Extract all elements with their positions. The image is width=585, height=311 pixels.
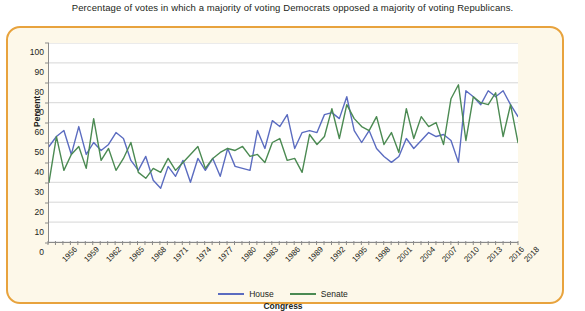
x-tick-label: 1983 bbox=[261, 245, 280, 264]
legend-swatch-senate bbox=[290, 293, 316, 296]
x-axis-labels: 1956195919621965196819711974197719801983… bbox=[48, 245, 518, 285]
x-tick-label: 1977 bbox=[216, 245, 235, 264]
x-tick-label: 2018 bbox=[522, 245, 541, 264]
y-tick-label: 30 bbox=[35, 187, 44, 198]
y-tick-label: 90 bbox=[35, 67, 44, 78]
y-tick-label: 100 bbox=[30, 47, 44, 58]
legend-label-house: House bbox=[249, 289, 274, 299]
x-tick-label: 1992 bbox=[328, 245, 347, 264]
x-tick-label: 1968 bbox=[149, 245, 168, 264]
x-axis-title: Congress bbox=[48, 301, 518, 311]
legend-item-house: House bbox=[218, 289, 274, 299]
x-tick-label: 1989 bbox=[306, 245, 325, 264]
y-axis-title: Percent bbox=[32, 96, 42, 127]
x-tick-label: 1959 bbox=[82, 245, 101, 264]
x-tick-label: 1962 bbox=[104, 245, 123, 264]
x-tick-marks bbox=[48, 241, 518, 246]
chart-card: 0102030405060708090100 Percent 195619591… bbox=[6, 26, 564, 304]
x-tick-label: 1986 bbox=[284, 245, 303, 264]
y-tick-label: 60 bbox=[35, 127, 44, 138]
y-tick-label: 50 bbox=[35, 147, 44, 158]
y-tick-marks bbox=[49, 43, 54, 243]
y-tick-label: 10 bbox=[35, 227, 44, 238]
x-tick-label: 1980 bbox=[239, 245, 258, 264]
series-lines bbox=[49, 43, 518, 242]
x-tick-label: 1998 bbox=[373, 245, 392, 264]
x-tick-label: 1995 bbox=[351, 245, 370, 264]
chart-legend: House Senate bbox=[48, 289, 518, 299]
y-tick-label: 40 bbox=[35, 167, 44, 178]
x-tick-label: 1956 bbox=[60, 245, 79, 264]
x-tick-label: 1965 bbox=[127, 245, 146, 264]
x-tick-label: 2010 bbox=[463, 245, 482, 264]
plot-box bbox=[48, 43, 518, 243]
x-tick-label: 1974 bbox=[194, 245, 213, 264]
legend-swatch-house bbox=[218, 293, 244, 296]
x-tick-label: 2004 bbox=[418, 245, 437, 264]
y-tick-label: 0 bbox=[39, 247, 44, 258]
x-tick-label: 2001 bbox=[395, 245, 414, 264]
chart-caption: Percentage of votes in which a majority … bbox=[0, 2, 585, 13]
x-tick-label: 1971 bbox=[172, 245, 191, 264]
x-tick-label: 2007 bbox=[440, 245, 459, 264]
legend-item-senate: Senate bbox=[290, 289, 348, 299]
y-tick-label: 20 bbox=[35, 207, 44, 218]
y-axis-labels: 0102030405060708090100 bbox=[16, 37, 44, 249]
legend-label-senate: Senate bbox=[321, 289, 348, 299]
plot-area: 0102030405060708090100 Percent 195619591… bbox=[48, 43, 518, 243]
x-tick-label: 2013 bbox=[485, 245, 504, 264]
